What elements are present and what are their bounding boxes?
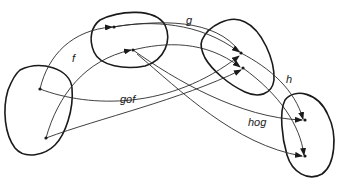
element-c2 <box>241 66 244 69</box>
arrow-g-2 <box>133 45 240 67</box>
element-d2 <box>303 154 306 157</box>
arrow-gof-2 <box>46 70 241 138</box>
arrow-f-1-ext <box>112 23 240 52</box>
set-b <box>91 12 168 67</box>
set-d <box>282 93 334 176</box>
set-a <box>5 66 72 155</box>
arrow-f-1 <box>40 27 112 89</box>
arrow-hog-1 <box>133 50 302 120</box>
function-composition-diagram: f g h gof hog <box>0 0 342 189</box>
element-c1 <box>239 51 242 54</box>
element-a1 <box>38 87 41 90</box>
element-b2 <box>131 48 134 51</box>
label-h: h <box>286 73 292 85</box>
element-d1 <box>303 118 306 121</box>
label-g: g <box>186 14 193 26</box>
label-f: f <box>72 52 76 64</box>
arrow-g-1 <box>114 24 239 52</box>
label-hog: hog <box>248 116 267 128</box>
element-b1 <box>112 25 115 28</box>
label-gof: gof <box>120 93 136 105</box>
element-a2 <box>44 136 47 139</box>
arrow-f-2 <box>46 50 131 138</box>
